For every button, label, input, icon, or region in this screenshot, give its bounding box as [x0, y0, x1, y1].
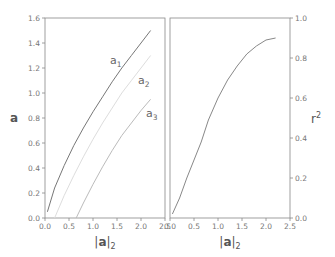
y-tick-label: 0.8 — [295, 54, 307, 63]
y-tick-label: 0.2 — [295, 174, 307, 183]
right-panel: 0.00.51.01.52.02.50.00.20.40.60.81.0|a|2… — [164, 14, 321, 252]
y-tick-label: 1.4 — [28, 39, 40, 48]
series-line-a3 — [76, 99, 150, 218]
y-axis-label: a — [10, 111, 18, 125]
y-tick-label: 0.6 — [28, 139, 40, 148]
y-tick-label: 0.0 — [295, 214, 307, 223]
x-tick-label: 0.0 — [39, 222, 51, 231]
y-tick-label: 0.4 — [295, 134, 307, 143]
series-label-a1: a1 — [110, 54, 122, 69]
y-tick-label: 0.2 — [28, 189, 40, 198]
x-tick-label: 2.0 — [260, 222, 272, 231]
series-line-a1 — [47, 31, 150, 212]
series-line-a2 — [55, 56, 151, 219]
left-panel: 0.00.51.01.52.02.50.00.20.40.60.81.01.21… — [10, 14, 171, 252]
y-tick-label: 0.6 — [295, 94, 307, 103]
series-label-a3: a3 — [146, 107, 158, 122]
y-tick-label: 1.0 — [28, 89, 40, 98]
x-tick-label: 2.5 — [284, 222, 296, 231]
series-line-r2 — [172, 38, 275, 214]
x-tick-label: 0.5 — [63, 222, 75, 231]
y-tick-label: 1.2 — [28, 64, 40, 73]
series-label-a2: a2 — [138, 74, 150, 89]
x-tick-label: 1.5 — [236, 222, 248, 231]
y-tick-label: 1.6 — [28, 14, 40, 23]
x-tick-label: 1.0 — [212, 222, 224, 231]
x-axis-label: |a|2 — [94, 235, 115, 251]
x-tick-label: 2.0 — [135, 222, 147, 231]
x-tick-label: 0.5 — [188, 222, 200, 231]
y-tick-label: 0.0 — [28, 214, 40, 223]
figure: 0.00.51.01.52.02.50.00.20.40.60.81.01.21… — [0, 0, 335, 257]
y-tick-label: 1.0 — [295, 14, 307, 23]
y-tick-label: 0.4 — [28, 164, 40, 173]
x-axis-label: |a|2 — [219, 235, 240, 251]
y-axis-label: r2 — [311, 111, 321, 126]
x-tick-label: 0.0 — [164, 222, 176, 231]
y-tick-label: 0.8 — [28, 114, 40, 123]
plot-frame — [170, 18, 290, 218]
x-tick-label: 1.0 — [87, 222, 99, 231]
x-tick-label: 1.5 — [111, 222, 123, 231]
